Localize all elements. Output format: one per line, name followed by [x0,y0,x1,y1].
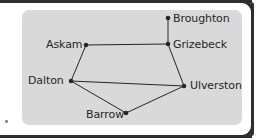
graph-node-label-dalton: Dalton [28,75,64,86]
scanned-page: BroughtonGrizebeckAskamDaltonUlverstonBa… [0,0,266,140]
graph-node-layer [69,16,187,116]
graph-edge-dalton-ulverston [71,81,184,86]
graph-node-label-broughton: Broughton [173,13,230,24]
graph-node-barrow[interactable] [124,111,129,116]
graph-node-label-askam: Askam [46,39,82,50]
graph-node-label-grizebeck: Grizebeck [173,39,227,50]
graph-node-askam[interactable] [84,43,89,48]
graph-node-label-ulverston: Ulverston [190,80,242,91]
graph-edge-layer [71,18,184,113]
graph-node-label-barrow: Barrow [86,109,124,120]
graph-node-grizebeck[interactable] [166,42,171,47]
graph-node-broughton[interactable] [166,16,171,21]
graph-node-dalton[interactable] [69,79,74,84]
graph-edge-barrow-ulverston [126,86,184,113]
graph-node-ulverston[interactable] [182,84,187,89]
graph-edge-askam-grizebeck [86,44,168,45]
